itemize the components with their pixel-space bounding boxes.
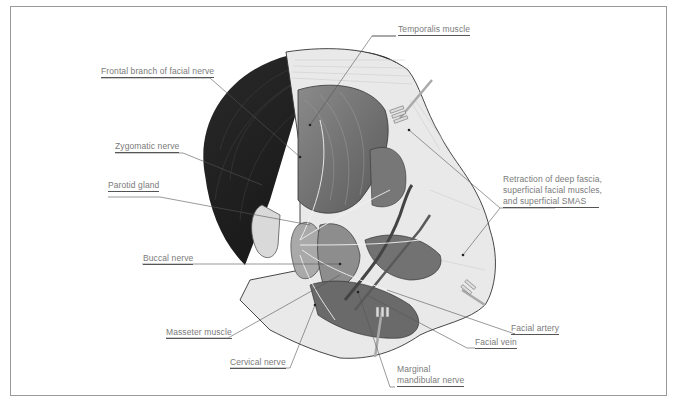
- ear: [252, 205, 280, 258]
- label-retraction: Retraction of deep fascia, superficial f…: [503, 174, 602, 208]
- label-retraction-line1: Retraction of deep fascia,: [503, 174, 602, 185]
- label-retraction-line3: and superficial SMAS: [503, 196, 599, 208]
- label-facial-vein: Facial vein: [475, 337, 517, 349]
- label-temporalis-muscle: Temporalis muscle: [398, 24, 470, 36]
- label-marginal-line2: mandibular nerve: [397, 375, 464, 387]
- label-marginal-line1: Marginal: [397, 364, 464, 375]
- label-masseter-muscle: Masseter muscle: [166, 327, 232, 339]
- label-retraction-line2: superficial facial muscles,: [503, 185, 602, 196]
- label-cervical-nerve: Cervical nerve: [230, 357, 286, 369]
- label-parotid-gland: Parotid gland: [108, 180, 159, 192]
- label-marginal-mandibular-nerve: Marginal mandibular nerve: [397, 364, 464, 387]
- label-frontal-branch: Frontal branch of facial nerve: [101, 66, 214, 78]
- label-facial-artery: Facial artery: [511, 323, 559, 335]
- label-zygomatic-nerve: Zygomatic nerve: [115, 141, 179, 153]
- label-buccal-nerve: Buccal nerve: [143, 253, 193, 265]
